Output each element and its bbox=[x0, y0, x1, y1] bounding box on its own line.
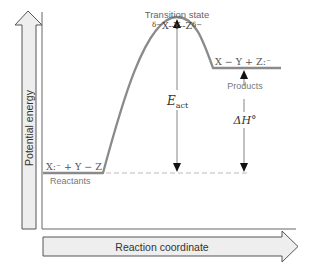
enthalpy-change-label: ΔH° bbox=[232, 114, 256, 127]
products-species: X − Y + Z:⁻ bbox=[215, 56, 271, 67]
transition-state-title: Transition state bbox=[145, 9, 210, 20]
energy-diagram: Potential energy Reaction coordinate Eac… bbox=[0, 0, 309, 268]
x-axis-arrow: Reaction coordinate bbox=[43, 231, 298, 262]
x-axis-label: Reaction coordinate bbox=[115, 241, 209, 253]
activation-energy-arrow: Eact bbox=[166, 19, 189, 172]
transition-state-species: δ−X--Y--Zδ− bbox=[152, 20, 202, 31]
y-axis-label: Potential energy bbox=[23, 89, 35, 166]
y-axis-arrow: Potential energy bbox=[15, 11, 42, 229]
reactants-species: X:⁻ + Y − Z bbox=[46, 161, 102, 172]
products-label: Products bbox=[227, 81, 263, 91]
reactants-label: Reactants bbox=[50, 176, 91, 186]
